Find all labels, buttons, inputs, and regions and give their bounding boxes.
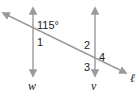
angle-label-4: 4	[99, 51, 105, 63]
diagram-canvas: 115° 1 2 4 3 w v ℓ	[0, 0, 140, 98]
angle-label-115: 115°	[37, 19, 59, 31]
angle-label-2: 2	[84, 39, 90, 51]
line-l-transversal	[3, 13, 126, 73]
line-label-l: ℓ	[130, 71, 135, 85]
line-label-v: v	[91, 79, 97, 93]
line-label-w: w	[28, 79, 36, 93]
angle-label-1: 1	[37, 36, 43, 48]
angle-label-3: 3	[84, 61, 90, 73]
